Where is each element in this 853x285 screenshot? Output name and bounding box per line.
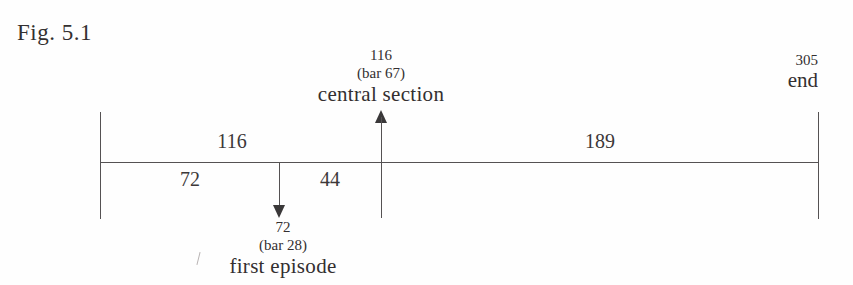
first-episode-value: 72 [229,219,336,236]
segment-label-total: 116 [217,130,246,153]
central-section-label: central section [318,82,444,106]
timeline-axis [100,162,818,163]
segment-label-first: 72 [180,168,200,191]
annotation-end: 305 end [788,52,818,92]
first-episode-bar: (bar 28) [229,236,336,254]
segment-label-second: 44 [320,168,340,191]
arrow-down-icon [273,205,285,218]
segment-label-third: 189 [585,130,615,153]
annotation-first-episode: 72 (bar 28) first episode [229,219,336,278]
scan-artifact [196,252,200,265]
figure-container: Fig. 5.1 116 (bar 67) central section 30… [0,0,853,285]
annotation-central-section: 116 (bar 67) central section [318,47,444,106]
end-value: 305 [788,52,818,69]
central-section-value: 116 [318,47,444,64]
tick-start [100,112,101,219]
tick-end [818,112,819,219]
tick-first-episode [279,163,280,208]
end-label: end [788,69,818,92]
figure-caption: Fig. 5.1 [17,20,92,46]
tick-central-section [381,117,382,218]
central-section-bar: (bar 67) [318,64,444,82]
first-episode-label: first episode [229,254,336,278]
